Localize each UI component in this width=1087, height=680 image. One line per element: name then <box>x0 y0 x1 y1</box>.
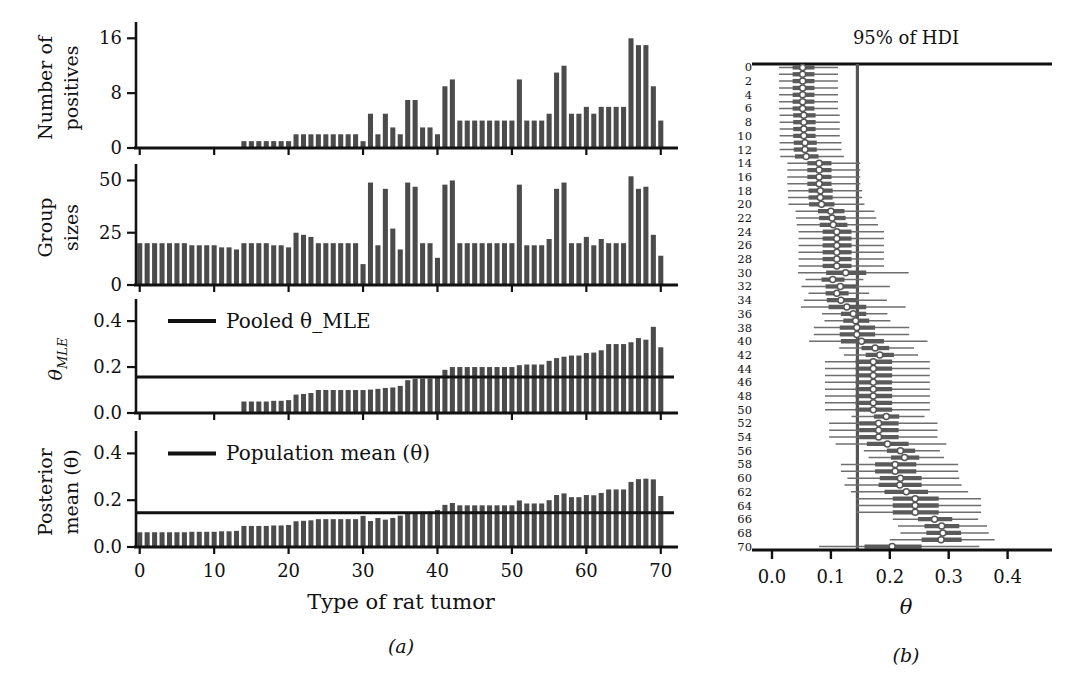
median-marker <box>800 85 806 91</box>
y-tick-label-b: 44 <box>737 362 752 376</box>
y-tick-label: 0.4 <box>93 442 122 463</box>
x-tick-label-b: 0.2 <box>875 566 904 587</box>
bar <box>606 489 611 547</box>
bar <box>271 525 276 547</box>
bar <box>152 243 157 285</box>
y-tick-label-b: 26 <box>737 238 752 252</box>
bar <box>279 401 284 413</box>
median-marker <box>843 270 849 276</box>
median-marker <box>801 133 807 139</box>
ylabel-positives-2: positives <box>60 46 82 131</box>
y-tick-label: 0.2 <box>93 356 122 377</box>
bar <box>658 121 663 148</box>
legend-label: Population mean (θ) <box>226 441 430 465</box>
bar <box>368 114 373 148</box>
y-tick-label-b: 16 <box>737 170 752 184</box>
bar <box>331 519 336 547</box>
median-marker <box>801 112 807 118</box>
bar <box>182 243 187 285</box>
bar <box>353 390 358 413</box>
bar <box>428 243 433 285</box>
bar <box>628 176 633 285</box>
hdi-title: 95% of HDI <box>853 27 959 48</box>
bar <box>651 327 656 413</box>
figure-root: 0816025500.00.20.40.00.20.40102030405060… <box>0 0 1087 680</box>
y-tick-label: 8 <box>111 82 122 103</box>
y-tick-label: 50 <box>99 169 122 190</box>
median-marker <box>828 208 834 214</box>
bar <box>547 114 552 148</box>
bar <box>442 185 447 285</box>
bar <box>390 127 395 148</box>
bar <box>643 45 648 148</box>
bar <box>651 86 656 148</box>
median-marker <box>800 78 806 84</box>
y-tick-label: 25 <box>99 222 122 243</box>
y-tick-label-b: 12 <box>737 143 752 157</box>
bar <box>517 365 522 413</box>
bar <box>547 500 552 547</box>
median-marker <box>818 201 824 207</box>
bar <box>353 243 358 285</box>
bar <box>308 393 313 413</box>
bar <box>294 134 299 148</box>
bar <box>435 510 440 547</box>
bar <box>390 387 395 413</box>
x-tick-label: 10 <box>203 560 226 581</box>
median-marker <box>801 126 807 132</box>
y-tick-label-b: 60 <box>737 471 752 485</box>
bar <box>614 243 619 285</box>
bar <box>346 134 351 148</box>
bar <box>547 239 552 285</box>
median-marker <box>837 283 843 289</box>
bar <box>584 107 589 148</box>
y-tick-label-b: 32 <box>737 279 752 293</box>
bar <box>487 367 492 413</box>
bar <box>383 520 388 547</box>
y-tick-label: 0.2 <box>93 489 122 510</box>
bar <box>561 66 566 148</box>
y-tick-label-b: 10 <box>737 129 752 143</box>
bar <box>145 243 150 285</box>
bar <box>636 189 641 285</box>
bar <box>383 114 388 148</box>
bar <box>532 121 537 148</box>
bar <box>621 107 626 148</box>
ylabel-groupsizes-2: sizes <box>60 204 82 251</box>
bar <box>480 121 485 148</box>
bar <box>621 243 626 285</box>
ylabel-posterior-2: mean (θ) <box>60 449 82 534</box>
bar <box>294 395 299 413</box>
y-tick-label-b: 2 <box>745 74 752 88</box>
bar <box>606 243 611 285</box>
bar <box>405 183 410 285</box>
bar <box>599 493 604 547</box>
bar <box>606 107 611 148</box>
median-marker <box>800 71 806 77</box>
bar <box>271 245 276 285</box>
bar <box>413 100 418 148</box>
median-marker <box>844 304 850 310</box>
bar <box>494 367 499 413</box>
bar <box>614 489 619 547</box>
bar <box>308 134 313 148</box>
bar <box>167 243 172 285</box>
bar <box>502 121 507 148</box>
bar <box>472 121 477 148</box>
median-marker <box>876 427 882 433</box>
bar <box>331 390 336 413</box>
y-tick-label: 0.0 <box>93 536 122 557</box>
y-tick-label-b: 40 <box>737 334 752 348</box>
y-tick-label-b: 56 <box>737 444 752 458</box>
bar <box>197 245 202 285</box>
bar <box>502 243 507 285</box>
median-marker <box>939 523 945 529</box>
bar <box>614 344 619 413</box>
y-tick-label-b: 4 <box>745 88 752 102</box>
bar <box>472 367 477 413</box>
y-tick-label-b: 70 <box>737 540 752 554</box>
median-marker <box>876 434 882 440</box>
bar <box>569 114 574 148</box>
bar <box>241 526 246 547</box>
bar <box>539 365 544 413</box>
